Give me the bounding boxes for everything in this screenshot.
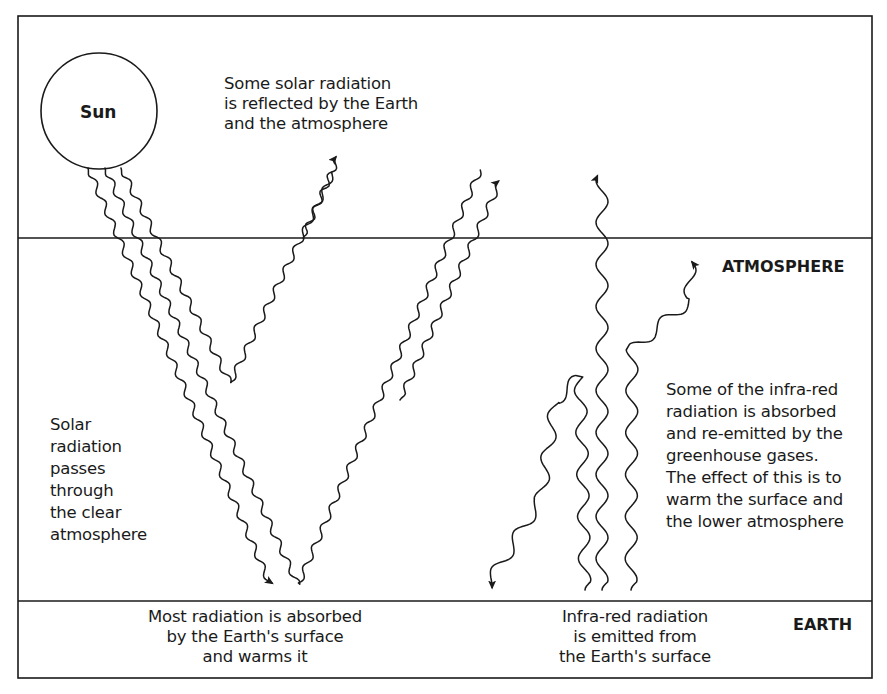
infrared-emitted-label: Infra-red radiation is emitted from the … xyxy=(540,607,730,667)
label-line: through xyxy=(50,480,147,502)
label-line: by the Earth's surface xyxy=(130,627,380,647)
label-line: passes xyxy=(50,458,147,480)
label-line: the clear xyxy=(50,502,147,524)
label-line: Some of the infra-red xyxy=(666,379,844,401)
label-line: warm the surface and xyxy=(666,489,844,511)
solar-ray-2-icon xyxy=(105,168,481,584)
solar-passes-label: Solar radiation passes through the clear… xyxy=(50,414,147,546)
greenhouse-diagram xyxy=(0,0,887,694)
label-line: the lower atmosphere xyxy=(666,511,844,533)
absorbed-radiation-label: Most radiation is absorbed by the Earth'… xyxy=(130,607,380,667)
label-line: and the atmosphere xyxy=(224,114,418,134)
label-line: is reflected by the Earth xyxy=(224,94,418,114)
atmosphere-layer-label: ATMOSPHERE xyxy=(722,257,844,277)
label-line: The effect of this is to xyxy=(666,467,844,489)
label-line: is emitted from xyxy=(540,627,730,647)
greenhouse-gases-label: Some of the infra-red radiation is absor… xyxy=(666,379,844,533)
label-line: radiation xyxy=(50,436,147,458)
label-line: Solar xyxy=(50,414,147,436)
label-line: atmosphere xyxy=(50,524,147,546)
label-line: radiation is absorbed xyxy=(666,401,844,423)
earth-layer-label: EARTH xyxy=(793,615,852,635)
label-line: and re-emitted by the xyxy=(666,423,844,445)
label-line: greenhouse gases. xyxy=(666,445,844,467)
label-line: Most radiation is absorbed xyxy=(130,607,380,627)
label-line: the Earth's surface xyxy=(540,647,730,667)
label-line: Some solar radiation xyxy=(224,74,418,94)
reflected-radiation-label: Some solar radiation is reflected by the… xyxy=(224,74,418,134)
reflected-surface-ray-arrow-icon xyxy=(400,181,498,400)
reflected-ray-arrow-icon xyxy=(303,157,337,238)
sun-label: Sun xyxy=(80,102,116,122)
infrared-return-arrow-icon xyxy=(490,375,590,590)
label-line: Infra-red radiation xyxy=(540,607,730,627)
label-line: and warms it xyxy=(130,647,380,667)
